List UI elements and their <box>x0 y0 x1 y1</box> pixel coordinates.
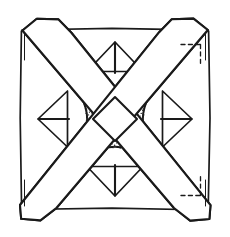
ornament-drawing-canvas <box>0 0 230 237</box>
ornament-figure <box>0 0 230 237</box>
